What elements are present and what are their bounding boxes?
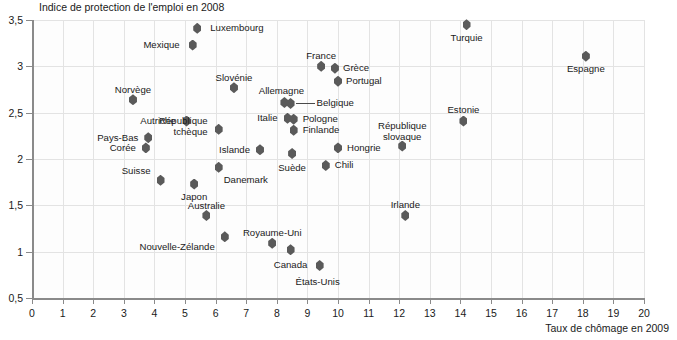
data-point-label: Canada [274, 260, 308, 271]
data-point-label: Grèce [343, 63, 369, 74]
data-point-label: Suisse [122, 166, 151, 177]
data-point-label: Pologne [303, 114, 338, 125]
x-axis-tick [430, 299, 431, 304]
data-point-label: Danemark [224, 175, 268, 186]
x-axis-tick-label: 7 [243, 307, 249, 319]
gridline-horizontal [32, 205, 644, 206]
gridline-horizontal [32, 20, 644, 21]
x-axis-tick-label: 3 [121, 307, 127, 319]
x-axis-tick [246, 299, 247, 304]
y-axis-tick-label: 1,5 [0, 199, 23, 211]
data-point-label: République slovaque [378, 121, 427, 142]
data-point-label: Hongrie [347, 143, 381, 154]
x-axis-tick-label: 1 [60, 307, 66, 319]
gridline-horizontal [32, 252, 644, 253]
label-leader-line [296, 103, 315, 104]
x-axis-tick-label: 0 [29, 307, 35, 319]
y-axis-tick [26, 113, 32, 114]
y-axis-title: Indice de protection de l'emploi en 2008 [39, 1, 224, 13]
x-axis-tick-label: 17 [546, 307, 558, 319]
x-axis-tick [369, 299, 370, 304]
x-axis-tick-label: 5 [182, 307, 188, 319]
x-axis-tick [307, 299, 308, 304]
x-axis-title: Taux de chômage en 2009 [545, 322, 669, 334]
scatter-chart-figure: Indice de protection de l'emploi en 2008… [0, 0, 677, 340]
data-point-label: États-Unis [296, 277, 340, 288]
y-axis-tick [26, 20, 32, 21]
x-axis-tick [552, 299, 553, 304]
data-point-label: Espagne [567, 64, 605, 75]
x-axis-tick-label: 18 [577, 307, 589, 319]
data-point-label: Royaume-Uni [243, 228, 302, 239]
data-point-label: Mexique [143, 40, 179, 51]
x-axis-tick [63, 299, 64, 304]
y-axis-tick [26, 252, 32, 253]
data-point-label: Norvège [115, 85, 151, 96]
y-axis-tick-label: 0,5 [0, 292, 23, 304]
gridline-horizontal [32, 113, 644, 114]
x-axis-tick-label: 13 [424, 307, 436, 319]
x-axis-tick [216, 299, 217, 304]
x-axis-tick-label: 14 [455, 307, 467, 319]
x-axis-tick-label: 20 [638, 307, 650, 319]
x-axis-tick [277, 299, 278, 304]
x-axis-tick [460, 299, 461, 304]
data-point-label: Chili [335, 160, 354, 171]
x-axis-tick [522, 299, 523, 304]
x-axis-tick-label: 11 [363, 307, 374, 319]
x-axis-tick [583, 299, 584, 304]
data-point-label: Corée [110, 143, 136, 154]
data-point-label: Islande [219, 145, 250, 156]
data-point-label: Portugal [346, 76, 382, 87]
data-point-label: Belgique [317, 98, 354, 109]
x-axis-tick-label: 19 [608, 307, 620, 319]
x-axis-tick-label: 9 [304, 307, 310, 319]
x-axis-tick [399, 299, 400, 304]
data-point-label: Allemagne [259, 86, 304, 97]
y-axis-tick [26, 205, 32, 206]
data-point-label: Finlande [303, 125, 340, 136]
data-point-label: Irlande [391, 200, 420, 211]
x-axis-tick [338, 299, 339, 304]
y-axis-tick [26, 159, 32, 160]
x-axis-tick-label: 12 [393, 307, 405, 319]
data-point-label: Turquie [450, 33, 482, 44]
data-point-label: Italie [257, 113, 277, 124]
y-axis-tick-label: 3,5 [0, 14, 23, 26]
x-axis-tick-label: 16 [516, 307, 528, 319]
data-point-label: Nouvelle-Zélande [140, 242, 215, 253]
data-point-label: Slovénie [216, 73, 253, 84]
x-axis-tick-label: 10 [332, 307, 344, 319]
x-axis-tick-label: 8 [274, 307, 280, 319]
x-axis-tick-label: 6 [213, 307, 219, 319]
y-axis-tick-label: 2 [0, 153, 23, 165]
gridline-vertical [644, 20, 645, 298]
y-axis-tick [26, 298, 32, 299]
data-point-label: Australie [188, 201, 225, 212]
x-axis-tick-label: 15 [485, 307, 497, 319]
x-axis-tick-label: 2 [90, 307, 96, 319]
y-axis-tick-label: 1 [0, 246, 23, 258]
y-axis-tick-label: 3 [0, 60, 23, 72]
data-point-label: France [306, 51, 336, 62]
x-axis-tick [185, 299, 186, 304]
y-axis-tick-label: 2,5 [0, 107, 23, 119]
x-axis-tick [32, 299, 33, 304]
y-axis-tick [26, 66, 32, 67]
x-axis-tick-label: 4 [151, 307, 157, 319]
data-point-label: Luxembourg [210, 23, 263, 34]
data-point-label: Estonie [447, 105, 479, 116]
x-axis-tick [613, 299, 614, 304]
x-axis-tick [491, 299, 492, 304]
x-axis-tick [644, 299, 645, 304]
x-axis-tick [154, 299, 155, 304]
data-point-label: Suède [278, 163, 306, 174]
data-point-label: République tchèque [159, 116, 208, 137]
y-axis-line [32, 20, 34, 299]
x-axis-tick [93, 299, 94, 304]
x-axis-tick [124, 299, 125, 304]
